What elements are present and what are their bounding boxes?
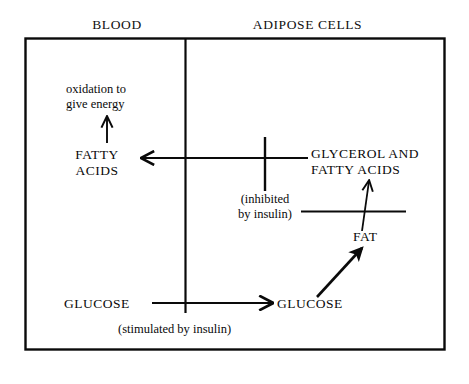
arrow-fat-to-glycerol	[362, 181, 369, 231]
label-fat: FAT	[353, 229, 378, 245]
arrow-glucose-to-fat	[317, 248, 362, 297]
label-oxidation-to-give-energy: oxidation to give energy	[66, 82, 126, 111]
label-glycerol-and-fatty-acids: GLYCEROL AND FATTY ACIDS	[311, 146, 419, 177]
annotation-inhibited-by-insulin: (inhibited by insulin)	[229, 192, 301, 221]
diagram-canvas: BLOOD ADIPOSE CELLS	[0, 0, 469, 384]
label-glucose-blood: GLUCOSE	[64, 296, 130, 312]
label-glucose-adipose: GLUCOSE	[277, 296, 343, 312]
annotation-stimulated-by-insulin: (stimulated by insulin)	[118, 322, 231, 337]
label-fatty-acids-blood: FATTY ACIDS	[58, 147, 136, 178]
